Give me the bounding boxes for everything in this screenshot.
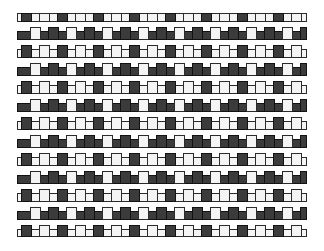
vertical-tile-dark bbox=[165, 225, 176, 237]
vertical-tile-dark bbox=[237, 13, 248, 22]
vertical-tile-light bbox=[246, 27, 257, 40]
vertical-tile-light bbox=[282, 207, 293, 220]
vertical-tile-dark bbox=[57, 117, 68, 130]
vertical-tile-light bbox=[282, 135, 293, 148]
vertical-tile-light bbox=[210, 27, 221, 40]
vertical-tile-dark bbox=[129, 81, 140, 94]
vertical-tile-dark bbox=[156, 207, 167, 220]
vertical-tile-dark bbox=[273, 13, 284, 22]
vertical-tile-dark bbox=[192, 99, 203, 112]
vertical-tile-dark bbox=[120, 207, 131, 220]
vertical-tile-light bbox=[291, 189, 302, 202]
vertical-tile-light bbox=[255, 81, 266, 94]
vertical-tile-dark bbox=[156, 135, 167, 148]
vertical-tile-dark bbox=[120, 135, 131, 148]
vertical-tile-dark bbox=[201, 117, 212, 130]
vertical-tile-light bbox=[183, 153, 194, 166]
vertical-tile-dark bbox=[48, 171, 59, 184]
vertical-tile-dark bbox=[165, 117, 176, 130]
vertical-tile-light bbox=[291, 81, 302, 94]
vertical-tile-light bbox=[102, 135, 113, 148]
vertical-tile-light bbox=[147, 45, 158, 58]
vertical-tile-dark bbox=[57, 81, 68, 94]
vertical-tile-dark bbox=[237, 117, 248, 130]
vertical-tile-dark bbox=[84, 171, 95, 184]
vertical-tile-dark bbox=[129, 45, 140, 58]
vertical-tile-light bbox=[183, 117, 194, 130]
vertical-tile-light bbox=[102, 171, 113, 184]
vertical-tile-dark bbox=[93, 189, 104, 202]
vertical-tile-light bbox=[138, 27, 149, 40]
vertical-tile-dark bbox=[21, 153, 32, 166]
vertical-tile-dark bbox=[201, 45, 212, 58]
vertical-tile-dark bbox=[300, 171, 307, 184]
vertical-tile-dark bbox=[201, 225, 212, 237]
vertical-tile-light bbox=[75, 45, 86, 58]
vertical-tile-light bbox=[246, 135, 257, 148]
vertical-tile-light bbox=[102, 63, 113, 76]
vertical-tile-light bbox=[66, 171, 77, 184]
vertical-tile-light bbox=[291, 153, 302, 166]
vertical-tile-dark bbox=[84, 63, 95, 76]
vertical-tile-light bbox=[183, 45, 194, 58]
vertical-tile-light bbox=[147, 81, 158, 94]
vertical-tile-dark bbox=[192, 207, 203, 220]
vertical-tile-dark bbox=[21, 117, 32, 130]
vertical-tile-light bbox=[219, 81, 230, 94]
vertical-tile-dark bbox=[165, 189, 176, 202]
vertical-tile-light bbox=[246, 99, 257, 112]
vertical-tile-light bbox=[291, 45, 302, 58]
vertical-tile-dark bbox=[120, 99, 131, 112]
vertical-tile-light bbox=[282, 27, 293, 40]
vertical-tile-light bbox=[111, 13, 122, 22]
vertical-tile-dark bbox=[201, 81, 212, 94]
vertical-tile-dark bbox=[264, 207, 275, 220]
vertical-tile-light bbox=[255, 13, 266, 22]
vertical-tile-light bbox=[75, 189, 86, 202]
vertical-tile-light bbox=[102, 99, 113, 112]
vertical-tile-light bbox=[174, 63, 185, 76]
weave-pattern bbox=[17, 13, 307, 237]
vertical-tile-light bbox=[183, 225, 194, 237]
vertical-tile-light bbox=[219, 225, 230, 237]
vertical-tile-dark bbox=[48, 63, 59, 76]
vertical-tile-light bbox=[66, 63, 77, 76]
vertical-tile-dark bbox=[273, 225, 284, 237]
vertical-tile-dark bbox=[192, 171, 203, 184]
vertical-tile-light bbox=[75, 81, 86, 94]
vertical-tile-dark bbox=[237, 225, 248, 237]
vertical-tile-light bbox=[102, 27, 113, 40]
vertical-tile-light bbox=[291, 225, 302, 237]
vertical-tile-light bbox=[291, 13, 302, 22]
vertical-tile-dark bbox=[264, 99, 275, 112]
vertical-tile-light bbox=[138, 207, 149, 220]
vertical-tile-light bbox=[255, 189, 266, 202]
vertical-tile-light bbox=[183, 189, 194, 202]
vertical-tile-light bbox=[174, 99, 185, 112]
vertical-tile-dark bbox=[237, 153, 248, 166]
vertical-tile-light bbox=[39, 81, 50, 94]
vertical-tile-dark bbox=[48, 27, 59, 40]
vertical-tile-dark bbox=[84, 27, 95, 40]
vertical-tile-light bbox=[39, 45, 50, 58]
vertical-tile-dark bbox=[165, 81, 176, 94]
vertical-tile-light bbox=[255, 117, 266, 130]
vertical-tile-light bbox=[66, 99, 77, 112]
vertical-tile-light bbox=[147, 13, 158, 22]
vertical-tile-dark bbox=[84, 135, 95, 148]
vertical-tile-dark bbox=[48, 99, 59, 112]
vertical-tile-light bbox=[219, 117, 230, 130]
vertical-tile-light bbox=[147, 189, 158, 202]
vertical-tile-dark bbox=[57, 189, 68, 202]
vertical-tile-light bbox=[255, 225, 266, 237]
vertical-tile-dark bbox=[129, 13, 140, 22]
vertical-tile-dark bbox=[93, 45, 104, 58]
vertical-tile-light bbox=[147, 117, 158, 130]
vertical-tile-dark bbox=[273, 81, 284, 94]
vertical-tile-dark bbox=[84, 99, 95, 112]
vertical-tile-dark bbox=[228, 27, 239, 40]
vertical-tile-light bbox=[282, 99, 293, 112]
vertical-tile-light bbox=[210, 63, 221, 76]
vertical-tile-light bbox=[138, 171, 149, 184]
vertical-tile-dark bbox=[93, 153, 104, 166]
